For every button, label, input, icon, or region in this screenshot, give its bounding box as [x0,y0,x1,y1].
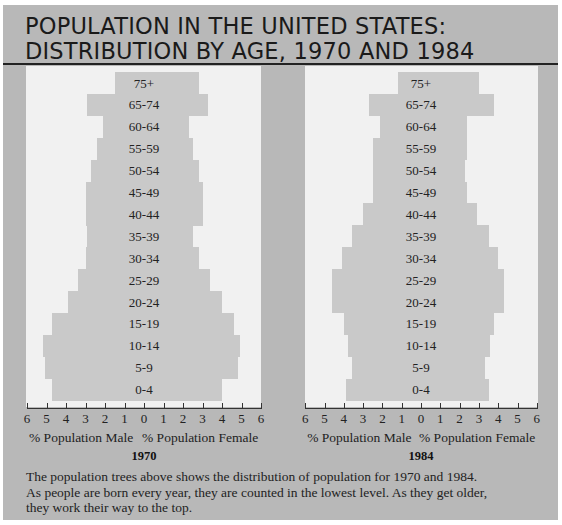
x-tick [47,403,48,408]
x-tick-label: 5 [318,411,332,427]
age-group-label: 25-29 [114,270,174,291]
x-tick [460,403,461,408]
age-group-label: 30-34 [114,248,174,269]
age-group-label: 15-19 [391,313,451,334]
x-tick [518,403,519,408]
x-tick [325,403,326,408]
age-group-label: 20-24 [391,292,451,313]
age-group-label: 35-39 [114,226,174,247]
chart-year-label: 1970 [114,449,174,464]
x-tick-label: 4 [215,411,229,427]
age-group-label: 45-49 [391,182,451,203]
age-group-label: 30-34 [391,248,451,269]
age-group-label: 55-59 [391,138,451,159]
age-group-label: 15-19 [114,313,174,334]
age-group-label: 75+ [391,73,451,94]
x-axis-1984 [305,408,538,409]
age-group-label: 65-74 [114,94,174,115]
x-tick-label: 2 [375,411,389,427]
x-tick-label: 6 [20,411,34,427]
x-tick-label: 4 [59,411,73,427]
x-tick-label: 4 [491,411,505,427]
x-tick-label: 5 [511,411,525,427]
x-tick [479,403,480,408]
age-group-label: 40-44 [114,204,174,225]
x-tick-label: 4 [337,411,351,427]
x-tick [183,403,184,408]
x-tick [125,403,126,408]
x-tick-label: 3 [79,411,93,427]
caption-line-3: they work their way to the top. [26,500,536,516]
x-tick-label: 0 [137,411,151,427]
x-tick-label: 5 [235,411,249,427]
x-tick-label: 2 [176,411,190,427]
age-group-label: 20-24 [114,292,174,313]
caption-line-1: The population trees above shows the dis… [26,469,536,485]
age-group-label: 10-14 [391,335,451,356]
x-axis-label-male: % Population Male [307,430,411,446]
chart-year-label: 1984 [391,449,451,464]
age-group-label: 35-39 [391,226,451,247]
x-tick [242,403,243,408]
x-axis-label-female: % Population Female [142,430,258,446]
x-axis-label-male: % Population Male [29,430,133,446]
x-tick-label: 5 [40,411,54,427]
x-tick [144,403,145,408]
x-tick-label: 6 [298,411,312,427]
x-tick-label: 6 [530,411,544,427]
x-tick [261,403,262,408]
x-tick-label: 2 [453,411,467,427]
age-group-label: 5-9 [391,357,451,378]
x-tick [27,403,28,408]
x-axis-label-female: % Population Female [419,430,535,446]
x-tick [86,403,87,408]
x-tick-label: 6 [254,411,268,427]
x-tick [203,403,204,408]
figure-title: POPULATION IN THE UNITED STATES: DISTRIB… [25,14,545,64]
x-tick-label: 1 [433,411,447,427]
x-tick [498,403,499,408]
age-group-label: 0-4 [114,379,174,400]
x-tick-label: 3 [472,411,486,427]
age-group-label: 50-54 [391,160,451,181]
age-group-label: 10-14 [114,335,174,356]
x-tick [305,403,306,408]
age-group-label: 45-49 [114,182,174,203]
title-line-2: DISTRIBUTION BY AGE, 1970 AND 1984 [25,39,545,64]
x-tick-label: 0 [414,411,428,427]
x-tick [421,403,422,408]
x-tick-label: 1 [157,411,171,427]
age-group-label: 60-64 [391,116,451,137]
age-group-label: 55-59 [114,138,174,159]
age-group-label: 0-4 [391,379,451,400]
x-tick [537,403,538,408]
x-tick [66,403,67,408]
age-group-label: 25-29 [391,270,451,291]
age-group-label: 50-54 [114,160,174,181]
x-tick [164,403,165,408]
x-tick-label: 1 [395,411,409,427]
x-axis-1970 [27,408,262,409]
x-tick-label: 3 [356,411,370,427]
age-group-label: 60-64 [114,116,174,137]
x-tick [105,403,106,408]
age-group-label: 40-44 [391,204,451,225]
x-tick [402,403,403,408]
caption: The population trees above shows the dis… [26,469,536,516]
caption-line-2: As people are born every year, they are … [26,485,536,501]
age-group-label: 5-9 [114,357,174,378]
title-line-1: POPULATION IN THE UNITED STATES: [25,14,545,39]
figure-frame: POPULATION IN THE UNITED STATES: DISTRIB… [3,5,558,520]
age-group-label: 75+ [114,73,174,94]
x-tick-label: 1 [118,411,132,427]
title-divider [3,63,558,65]
age-group-label: 65-74 [391,94,451,115]
x-tick [363,403,364,408]
x-tick [382,403,383,408]
x-tick-label: 2 [98,411,112,427]
x-tick [222,403,223,408]
x-tick-label: 3 [196,411,210,427]
x-tick [344,403,345,408]
x-tick [440,403,441,408]
